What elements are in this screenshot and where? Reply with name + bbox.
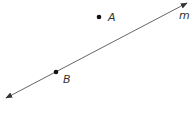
geometry-diagram: A B m [0,0,193,123]
point-a-label: A [107,11,116,24]
line-m-label: m [179,9,190,22]
point-b [54,70,59,75]
point-b-label: B [63,73,71,86]
point-a [97,15,102,20]
line-m [6,3,187,98]
